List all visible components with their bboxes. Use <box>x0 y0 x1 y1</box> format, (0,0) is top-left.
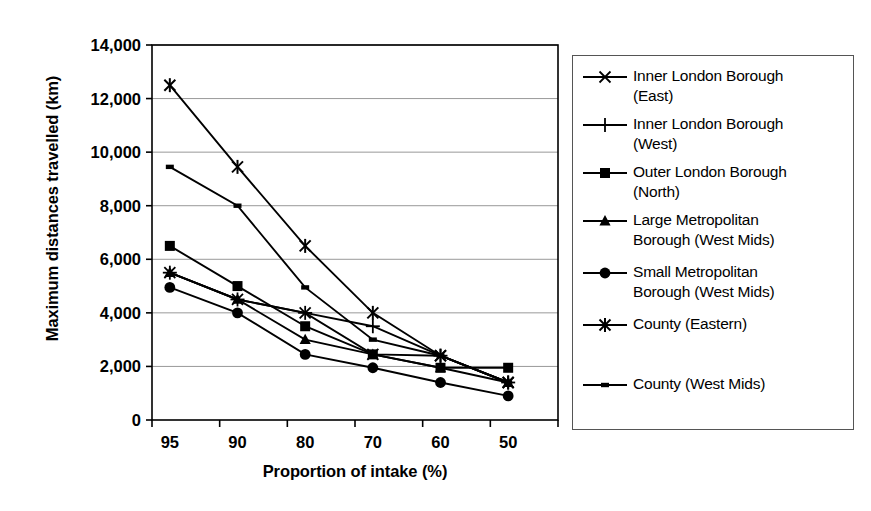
data-series <box>165 241 513 373</box>
data-series <box>164 267 514 387</box>
legend-item[interactable]: Inner London Borough (West) <box>581 114 849 153</box>
small-dash-marker <box>369 337 377 341</box>
data-series <box>164 282 513 401</box>
data-series <box>164 78 513 389</box>
legend-item-list: Inner London Borough (East)Inner London … <box>573 56 853 429</box>
y-axis-tick-label: 12,000 <box>91 90 141 108</box>
gridlines <box>152 45 558 366</box>
chart-legend: Inner London Borough (East)Inner London … <box>572 55 854 430</box>
legend-key-circle-marker <box>581 263 629 282</box>
small-dash-marker <box>166 165 174 169</box>
legend-item[interactable]: County (West Mids) <box>581 374 849 394</box>
legend-item[interactable]: Inner London Borough (East) <box>581 66 849 105</box>
x-axis-tick-label: 95 <box>161 433 179 451</box>
circle-marker <box>367 362 378 373</box>
legend-key-triangle-marker <box>581 211 629 230</box>
y-axis-tick-label: 6,000 <box>100 250 141 268</box>
series-line <box>170 85 508 382</box>
y-axis-ticks <box>146 45 152 420</box>
data-series <box>163 266 515 390</box>
x-axis-tick-label: 90 <box>228 433 246 451</box>
square-marker <box>503 363 513 373</box>
data-series-layer <box>163 78 515 401</box>
circle-marker <box>435 377 446 388</box>
legend-item[interactable]: Small Metropolitan Borough (West Mids) <box>581 262 849 301</box>
y-axis-tick-label: 4,000 <box>100 304 141 322</box>
x-axis-tick-label: 80 <box>296 433 314 451</box>
x-axis-tick-label: 50 <box>499 433 517 451</box>
y-axis-tick-labels: 02,0004,0006,0008,00010,00012,00014,000 <box>91 36 141 429</box>
x-axis-tick-labels: 959080706050 <box>161 433 518 451</box>
legend-item[interactable]: Large Metropolitan Borough (West Mids) <box>581 210 849 249</box>
legend-key-plus-marker <box>581 115 629 134</box>
legend-item-label: County (West Mids) <box>633 374 765 394</box>
plot-area: 02,0004,0006,0008,00010,00012,00014,000 … <box>0 0 580 460</box>
chart-figure: Maximum distances travelled (km) 02,0004… <box>0 0 871 511</box>
legend-item-label: Inner London Borough (East) <box>633 66 783 105</box>
legend-item-label: Outer London Borough (North) <box>633 162 787 201</box>
legend-key-x-cross-marker <box>581 67 629 86</box>
y-axis-tick-label: 2,000 <box>100 357 141 375</box>
x-axis-tick-label: 70 <box>364 433 382 451</box>
small-dash-marker <box>301 285 309 289</box>
circle-marker <box>300 349 311 360</box>
x-axis-title: Proportion of intake (%) <box>152 462 558 481</box>
circle-marker <box>164 282 175 293</box>
legend-item-label: County (Eastern) <box>633 314 747 334</box>
y-axis-tick-label: 8,000 <box>100 197 141 215</box>
square-marker <box>165 241 175 251</box>
triangle-marker <box>300 334 311 344</box>
legend-item-label: Inner London Borough (West) <box>633 114 783 153</box>
circle-marker <box>600 268 611 279</box>
circle-marker <box>503 390 514 401</box>
y-axis-tick-label: 14,000 <box>91 36 141 54</box>
x-axis-tick-label: 60 <box>431 433 449 451</box>
small-dash-marker <box>437 354 445 358</box>
data-series <box>164 267 513 388</box>
legend-item[interactable]: Outer London Borough (North) <box>581 162 849 201</box>
y-axis-tick-label: 10,000 <box>91 143 141 161</box>
square-marker <box>300 321 310 331</box>
series-line <box>170 287 508 395</box>
legend-key-square-marker <box>581 163 629 182</box>
circle-marker <box>232 307 243 318</box>
y-axis-tick-label: 0 <box>132 411 141 429</box>
legend-key-small-dash-marker <box>581 375 629 394</box>
series-line <box>170 167 508 383</box>
small-dash-marker <box>601 383 609 387</box>
small-dash-marker <box>234 204 242 208</box>
legend-key-asterisk-marker <box>581 315 629 334</box>
chart-plot-svg: 02,0004,0006,0008,00010,00012,00014,000 … <box>0 0 580 460</box>
x-axis-ticks <box>152 420 558 427</box>
square-marker <box>600 168 610 178</box>
square-marker <box>233 281 243 291</box>
small-dash-marker <box>504 380 512 384</box>
legend-item-label: Large Metropolitan Borough (West Mids) <box>633 210 775 249</box>
legend-item-label: Small Metropolitan Borough (West Mids) <box>633 262 775 301</box>
legend-item[interactable]: County (Eastern) <box>581 314 849 334</box>
